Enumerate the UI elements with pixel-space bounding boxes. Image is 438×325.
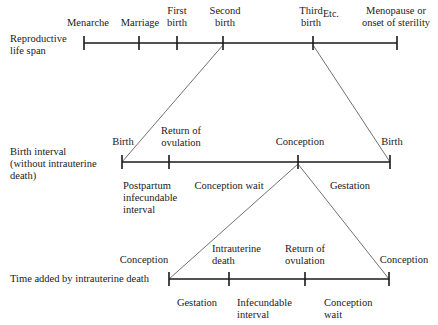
event-label: Second — [210, 5, 241, 17]
segment-label: Gestation — [177, 297, 217, 309]
reproductive-timeline — [84, 36, 397, 50]
event-label: onset of sterility — [362, 17, 430, 29]
event-label: Conception — [120, 254, 168, 266]
event-conception-end: Conception — [380, 254, 428, 266]
segment-label: infecundable — [123, 192, 177, 204]
event-birth-start: Birth — [112, 136, 134, 148]
event-menarche: Menarche — [67, 17, 109, 29]
intrauterine-timeline — [169, 272, 389, 286]
row-title-line: Time added by intrauterine death — [10, 273, 149, 285]
event-label: birth — [299, 17, 322, 29]
event-birth-end: Birth — [381, 136, 403, 148]
event-label: Menarche — [67, 17, 109, 29]
segment-gestation-2: Gestation — [177, 297, 217, 309]
event-label: Return of — [161, 125, 201, 137]
event-third-birth: Third birth — [299, 5, 322, 29]
event-label: Conception — [276, 136, 324, 148]
event-return-of-ovulation: Return of ovulation — [161, 125, 201, 149]
event-label: First — [167, 5, 187, 17]
event-conception: Conception — [276, 136, 324, 148]
row-title-line: (without intrauterine — [10, 158, 97, 170]
event-marriage: Marriage — [121, 17, 159, 29]
event-label: Intrauterine — [212, 243, 261, 255]
event-first-birth: First birth — [167, 5, 187, 29]
event-label: ovulation — [285, 255, 325, 267]
event-label: Conception — [380, 254, 428, 266]
event-label: Third — [299, 5, 322, 17]
segment-label: interval — [123, 204, 177, 216]
row-title-line: life span — [10, 45, 67, 57]
event-menopause: Menopause or onset of sterility — [362, 5, 430, 29]
event-conception-start: Conception — [120, 254, 168, 266]
row-title-line: Reproductive — [10, 33, 67, 45]
event-label: birth — [167, 17, 187, 29]
segment-conception-wait: Conception wait — [194, 180, 263, 192]
event-label: Return of — [285, 243, 325, 255]
row-title-birth-interval: Birth interval (without intrauterine dea… — [10, 146, 97, 182]
row-title-line: Birth interval — [10, 146, 97, 158]
event-label: Birth — [381, 136, 403, 148]
segment-conception-wait-2: Conception wait — [324, 297, 372, 321]
segment-label: Gestation — [330, 180, 370, 192]
row-title-line: death) — [10, 170, 97, 182]
row-title-intrauterine: Time added by intrauterine death — [10, 273, 149, 285]
event-label: Menopause or — [362, 5, 430, 17]
segment-gestation: Gestation — [330, 180, 370, 192]
segment-label: interval — [237, 309, 292, 321]
segment-label: wait — [324, 309, 372, 321]
segment-postpartum-infecundable: Postpartum infecundable interval — [123, 180, 177, 216]
event-etc: Etc. — [323, 8, 339, 20]
event-label: Marriage — [121, 17, 159, 29]
segment-label: Postpartum — [123, 180, 177, 192]
event-label: Etc. — [323, 8, 339, 20]
segment-label: Infecundable — [237, 297, 292, 309]
event-label: Birth — [112, 136, 134, 148]
row-title-reproductive: Reproductive life span — [10, 33, 67, 57]
event-return-of-ovulation-2: Return of ovulation — [285, 243, 325, 267]
segment-label: Conception wait — [194, 180, 263, 192]
event-label: ovulation — [161, 137, 201, 149]
segment-infecundable-interval: Infecundable interval — [237, 297, 292, 321]
birth-interval-timeline — [122, 155, 390, 169]
segment-label: Conception — [324, 297, 372, 309]
event-label: birth — [210, 17, 241, 29]
event-label: death — [212, 255, 261, 267]
event-second-birth: Second birth — [210, 5, 241, 29]
event-intrauterine-death: Intrauterine death — [212, 243, 261, 267]
